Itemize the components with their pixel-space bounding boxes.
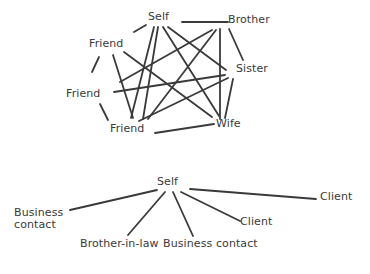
node-label-friend-left-lower: Friend bbox=[66, 88, 100, 100]
sparse-network-edges bbox=[70, 189, 316, 236]
node-label-sister: Sister bbox=[236, 63, 268, 75]
edge-self2-client-mid bbox=[181, 192, 240, 221]
edge-stub-friend-left-lower bbox=[92, 57, 99, 72]
edge-layer bbox=[0, 0, 370, 274]
edge-brother-friend1 bbox=[148, 30, 216, 119]
edge-sister-friend1 bbox=[139, 78, 228, 121]
node-label-friend-bottom: Friend bbox=[110, 123, 144, 135]
edge-brother-friend2 bbox=[120, 30, 212, 82]
edge-self2-brother-in-law bbox=[128, 192, 165, 235]
node-label-brother: Brother bbox=[228, 14, 270, 26]
edge-friend1-friend3 bbox=[113, 55, 133, 118]
edge-self2-client-right bbox=[190, 189, 316, 199]
edge-self-wife bbox=[163, 27, 219, 116]
edge-sister-wife bbox=[225, 79, 233, 118]
edge-self2-bcontact-left bbox=[70, 190, 157, 210]
diagram-canvas: Self Brother Sister Wife Friend Friend F… bbox=[0, 0, 370, 274]
node-label-self-bottom: Self bbox=[157, 176, 178, 188]
node-label-wife: Wife bbox=[216, 118, 241, 130]
node-label-business-contact-mid: Business contact bbox=[163, 238, 258, 250]
edge-self-friend3 bbox=[134, 25, 146, 32]
node-label-brother-in-law: Brother-in-law bbox=[80, 238, 159, 250]
edge-stub-friend-bottom bbox=[100, 104, 108, 120]
edge-wife-friend1 bbox=[155, 124, 214, 133]
node-label-client-right: Client bbox=[320, 191, 352, 203]
node-label-business-contact-left: Business contact bbox=[14, 207, 63, 230]
node-label-client-mid: Client bbox=[240, 216, 272, 228]
edge-self2-bcontact-mid bbox=[173, 192, 193, 236]
node-label-self-top: Self bbox=[148, 11, 169, 23]
edge-brother-sister bbox=[229, 29, 243, 60]
node-label-friend-left-upper: Friend bbox=[89, 38, 123, 50]
